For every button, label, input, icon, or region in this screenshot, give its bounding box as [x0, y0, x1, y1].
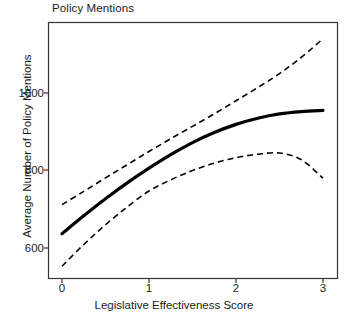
upper-confidence-band-line — [62, 39, 323, 205]
panel-border-group — [49, 23, 338, 279]
predicted-mean-line — [62, 110, 323, 233]
plot-area — [0, 0, 348, 319]
chart-figure: Policy Mentions Average Number of Policy… — [0, 0, 348, 319]
lower-confidence-band-line — [62, 153, 323, 266]
panel-border — [49, 23, 338, 279]
